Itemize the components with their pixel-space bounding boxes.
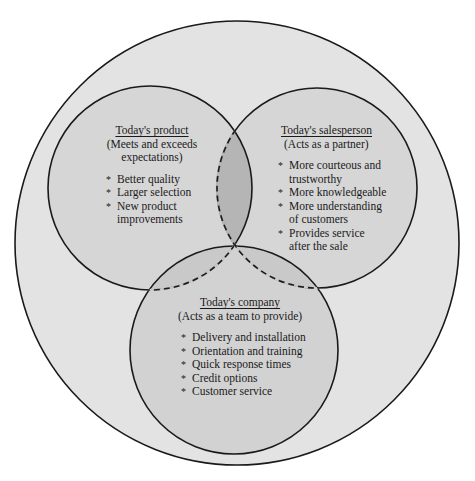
salesperson-title: Today's salesperson <box>278 124 396 138</box>
list-item: Better quality <box>106 173 208 187</box>
company-list: Delivery and installation Orientation an… <box>181 331 310 399</box>
list-item: Orientation and training <box>181 345 310 359</box>
product-list: Better quality Larger selection New prod… <box>106 173 208 227</box>
list-item: Larger selection <box>106 186 208 200</box>
list-item: More courteous and trustworthy <box>278 159 389 186</box>
list-item: New product improvements <box>106 200 197 227</box>
company-title: Today's company <box>170 296 310 310</box>
list-item: Credit options <box>181 372 310 386</box>
product-subtitle-line1: (Meets and exceeds <box>96 138 208 152</box>
product-block: Today's product (Meets and exceeds expec… <box>96 124 208 227</box>
salesperson-list: More courteous and trustworthy More know… <box>278 159 396 254</box>
product-title: Today's product <box>96 124 208 138</box>
salesperson-subtitle: (Acts as a partner) <box>278 138 396 152</box>
list-item: Provides service after the sale <box>278 227 369 254</box>
list-item: Delivery and installation <box>181 331 310 345</box>
list-item: More knowledgeable <box>278 186 396 200</box>
list-item: Customer service <box>181 385 310 399</box>
company-block: Today's company (Acts as a team to provi… <box>170 296 310 399</box>
venn-diagram <box>0 0 475 481</box>
list-item: More understanding of customers <box>278 200 393 227</box>
list-item: Quick response times <box>181 358 310 372</box>
product-subtitle-line2: expectations) <box>96 151 208 165</box>
company-subtitle: (Acts as a team to provide) <box>170 310 310 324</box>
salesperson-block: Today's salesperson (Acts as a partner) … <box>278 124 396 254</box>
